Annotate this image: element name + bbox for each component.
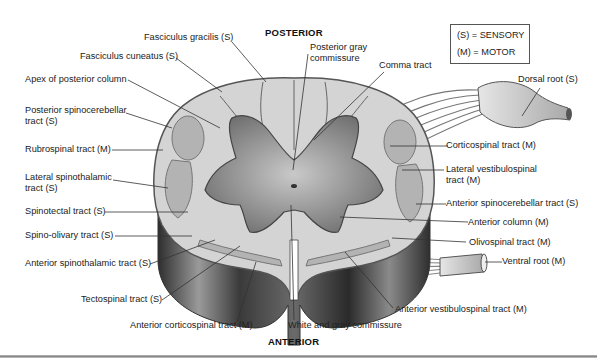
label-posterior-spinocerebellar: Posterior spinocerebellar tract (S) xyxy=(25,105,127,127)
label-spino-olivary: Spino-olivary tract (S) xyxy=(25,230,113,241)
label-corticospinal: Corticospinal tract (M) xyxy=(446,140,536,151)
label-anterior-corticospinal: Anterior corticospinal tract (M) xyxy=(130,320,253,331)
label-white-gray-commissure: White and gray commissure xyxy=(288,320,402,331)
label-lateral-spinothalamic-line2: tract (S) xyxy=(25,183,112,194)
ventral-root xyxy=(440,254,484,276)
label-olivospinal: Olivospinal tract (M) xyxy=(469,237,551,248)
label-anterior-column: Anterior column (M) xyxy=(468,217,549,228)
label-lateral-vestibulospinal: Lateral vestibulospinal tract (M) xyxy=(446,164,537,186)
label-lateral-vestibulospinal-line2: tract (M) xyxy=(446,175,537,186)
label-posterior-gray-commissure-line1: Posterior gray xyxy=(310,42,367,53)
legend-box: (S) = SENSORY (M) = MOTOR xyxy=(450,24,530,64)
label-spinotectal: Spinotectal tract (S) xyxy=(25,206,106,217)
posterior-heading: POSTERIOR xyxy=(265,27,323,38)
bottom-divider xyxy=(0,355,597,358)
central-canal xyxy=(291,184,297,188)
label-anterior-spinocerebellar: Anterior spinocerebellar tract (S) xyxy=(446,198,578,209)
label-rubrospinal: Rubrospinal tract (M) xyxy=(25,144,111,155)
label-lateral-vestibulospinal-line1: Lateral vestibulospinal xyxy=(446,164,537,175)
label-dorsal-root: Dorsal root (S) xyxy=(518,74,578,85)
label-apex-posterior-column: Apex of posterior column xyxy=(25,74,127,85)
label-posterior-gray-commissure: Posterior gray commissure xyxy=(310,42,367,64)
label-fasciculus-gracilis: Fasciculus gracilis (S) xyxy=(144,32,233,43)
label-fasciculus-cuneatus: Fasciculus cuneatus (S) xyxy=(80,51,178,62)
legend-sensory: (S) = SENSORY xyxy=(457,30,524,40)
label-posterior-spinocerebellar-line2: tract (S) xyxy=(25,116,127,127)
legend-motor: (M) = MOTOR xyxy=(457,47,515,57)
label-ventral-root: Ventral root (M) xyxy=(502,256,565,267)
dorsal-root-ganglion xyxy=(478,82,570,128)
label-anterior-vestibulospinal: Anterior vestibulospinal tract (M) xyxy=(395,304,527,315)
label-anterior-spinothalamic: Anterior spinothalamic tract (S) xyxy=(25,258,151,269)
label-posterior-spinocerebellar-line1: Posterior spinocerebellar xyxy=(25,105,127,116)
label-tectospinal: Tectospinal tract (S) xyxy=(81,294,162,305)
label-lateral-spinothalamic-line1: Lateral spinothalamic xyxy=(25,172,112,183)
anterior-heading: ANTERIOR xyxy=(268,336,319,347)
label-lateral-spinothalamic: Lateral spinothalamic tract (S) xyxy=(25,172,112,194)
label-posterior-gray-commissure-line2: commissure xyxy=(310,53,367,64)
label-comma-tract: Comma tract xyxy=(379,60,432,71)
